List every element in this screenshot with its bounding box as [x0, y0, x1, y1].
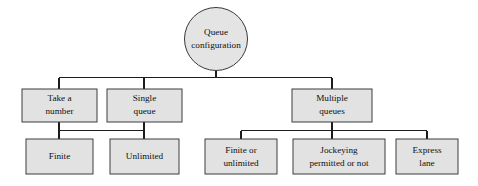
queue-configuration-diagram: Queue configuration Take a number Single… — [0, 0, 478, 186]
root-label-line2: configuration — [191, 40, 241, 50]
express-lane-label-line1: Express — [412, 145, 442, 155]
multiple-queues-label-line2: queues — [319, 106, 345, 116]
finite-or-unlimited-label-line1: Finite or — [225, 145, 256, 155]
diagram-canvas: Queue configuration Take a number Single… — [0, 0, 478, 186]
root-label-line1: Queue — [204, 27, 228, 37]
connector-group-root-to-level2 — [59, 70, 332, 89]
node-multiple-queues[interactable]: Multiple queues — [292, 89, 372, 122]
connector-group-left-branch — [59, 122, 144, 139]
single-queue-label-line1: Single — [133, 93, 156, 103]
connector-group-right-branch — [241, 122, 427, 139]
jockeying-label-line1: Jockeying — [320, 145, 358, 155]
node-single-queue[interactable]: Single queue — [107, 89, 182, 122]
node-finite-or-unlimited[interactable]: Finite or unlimited — [205, 139, 277, 174]
node-finite[interactable]: Finite — [26, 139, 93, 174]
node-jockeying-permitted-or-not[interactable]: Jockeying permitted or not — [293, 139, 385, 174]
node-take-a-number[interactable]: Take a number — [22, 89, 97, 122]
node-queue-configuration[interactable]: Queue configuration — [185, 8, 248, 71]
finite-or-unlimited-label-line2: unlimited — [223, 158, 259, 168]
node-unlimited[interactable]: Unlimited — [110, 139, 179, 174]
express-lane-label-line2: lane — [419, 158, 434, 168]
node-express-lane[interactable]: Express lane — [396, 139, 458, 174]
single-queue-label-line2: queue — [134, 106, 156, 116]
unlimited-label-line1: Unlimited — [126, 151, 164, 161]
finite-label-line1: Finite — [49, 151, 70, 161]
multiple-queues-label-line1: Multiple — [316, 93, 348, 103]
root-circle-shape — [185, 8, 248, 71]
take-a-number-label-line1: Take a — [47, 93, 71, 103]
take-a-number-label-line2: number — [45, 106, 73, 116]
jockeying-label-line2: permitted or not — [309, 158, 369, 168]
